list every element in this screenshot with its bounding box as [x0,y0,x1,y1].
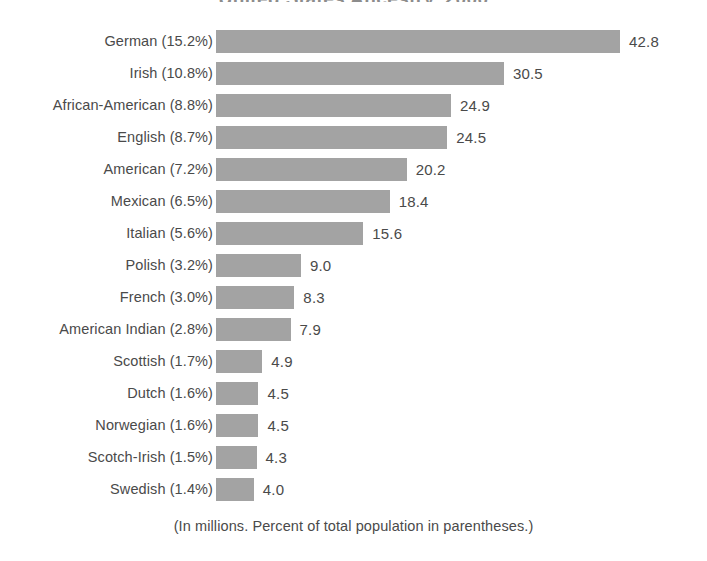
bar [216,382,258,405]
chart-title: United States Ancestry, 2000 [0,0,707,2]
bar-track: 7.9 [216,318,707,341]
bar-category-label: African-American (8.8%) [53,94,213,117]
bar-track: 4.9 [216,350,707,373]
bar [216,94,451,117]
bar-row: Swedish (1.4%)4.0 [0,478,707,501]
bar [216,446,257,469]
bar-row: English (8.7%)24.5 [0,126,707,149]
bar-row: Italian (5.6%)15.6 [0,222,707,245]
bar-value-label: 8.3 [303,286,324,309]
bar-track: 4.3 [216,446,707,469]
bar-category-label: American Indian (2.8%) [59,318,213,341]
bar-category-label: Norwegian (1.6%) [95,414,213,437]
bar-value-label: 30.5 [513,62,543,85]
bar-value-label: 20.2 [416,158,446,181]
bar-category-label: Italian (5.6%) [126,222,213,245]
bar-track: 4.5 [216,382,707,405]
bar-track: 8.3 [216,286,707,309]
bar-category-label: Scotch-Irish (1.5%) [88,446,213,469]
bar-category-label: Polish (3.2%) [125,254,213,277]
bar-category-label: French (3.0%) [120,286,213,309]
bar-track: 20.2 [216,158,707,181]
bar [216,126,447,149]
bar-row: Polish (3.2%)9.0 [0,254,707,277]
bar-track: 15.6 [216,222,707,245]
bar-value-label: 24.9 [460,94,490,117]
bar-category-label: Scottish (1.7%) [113,350,213,373]
bar-category-label: Irish (10.8%) [130,62,214,85]
bar-row: American Indian (2.8%)7.9 [0,318,707,341]
bar [216,222,363,245]
bar-row: Mexican (6.5%)18.4 [0,190,707,213]
bar-category-label: Dutch (1.6%) [127,382,213,405]
bar-value-label: 42.8 [629,30,659,53]
bar-track: 30.5 [216,62,707,85]
bar [216,414,258,437]
bar [216,318,291,341]
bar-value-label: 4.9 [271,350,292,373]
bar-category-label: American (7.2%) [104,158,213,181]
bar-row: Irish (10.8%)30.5 [0,62,707,85]
bar-value-label: 4.5 [267,414,288,437]
bar-value-label: 4.5 [267,382,288,405]
bar-value-label: 4.3 [266,446,287,469]
bar-value-label: 7.9 [300,318,321,341]
bar [216,350,262,373]
bar [216,62,504,85]
bar-category-label: Swedish (1.4%) [110,478,213,501]
bar-track: 9.0 [216,254,707,277]
bar [216,286,294,309]
bar-value-label: 9.0 [310,254,331,277]
bar-row: African-American (8.8%)24.9 [0,94,707,117]
bar-row: Dutch (1.6%)4.5 [0,382,707,405]
bar-row: French (3.0%)8.3 [0,286,707,309]
chart-footnote: (In millions. Percent of total populatio… [0,518,707,534]
bar-category-label: Mexican (6.5%) [111,190,213,213]
bar-row: Scotch-Irish (1.5%)4.3 [0,446,707,469]
bar-category-label: German (15.2%) [104,30,213,53]
bar-value-label: 4.0 [263,478,284,501]
bar-track: 18.4 [216,190,707,213]
bar [216,30,620,53]
bar-track: 4.0 [216,478,707,501]
bar-row: Norwegian (1.6%)4.5 [0,414,707,437]
bar [216,190,390,213]
bar-row: Scottish (1.7%)4.9 [0,350,707,373]
bar-track: 42.8 [216,30,707,53]
ancestry-bar-chart: United States Ancestry, 2000 German (15.… [0,0,707,561]
bar-track: 24.5 [216,126,707,149]
bar-category-label: English (8.7%) [117,126,213,149]
bar-rows-container: German (15.2%)42.8Irish (10.8%)30.5Afric… [0,30,707,510]
bar [216,478,254,501]
bar-row: American (7.2%)20.2 [0,158,707,181]
bar [216,254,301,277]
bar-value-label: 15.6 [372,222,402,245]
bar-row: German (15.2%)42.8 [0,30,707,53]
bar-value-label: 18.4 [399,190,429,213]
bar-track: 24.9 [216,94,707,117]
bar-value-label: 24.5 [456,126,486,149]
bar-track: 4.5 [216,414,707,437]
bar [216,158,407,181]
